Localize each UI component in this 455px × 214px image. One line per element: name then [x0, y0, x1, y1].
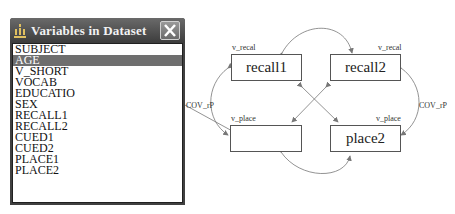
dialog-title: Variables in Dataset [31, 23, 146, 39]
cov-arrow-bottom [281, 152, 350, 174]
close-icon [161, 22, 179, 39]
list-item[interactable]: PLACE2 [13, 165, 182, 176]
cov-arrow-top [282, 28, 352, 53]
node-label: place2 [346, 130, 385, 146]
node-place2[interactable]: place2 [330, 125, 401, 152]
variance-label-place2[interactable]: v_place [376, 114, 401, 123]
cov-cross-1 [302, 87, 338, 122]
variance-label-place1[interactable]: v_place [231, 114, 256, 123]
covariance-label-right[interactable]: COV_rP [419, 101, 447, 110]
node-place1[interactable] [230, 125, 302, 152]
covariance-label-left[interactable]: COV_rP [186, 101, 214, 110]
list-item[interactable]: EDUCATIO [13, 88, 182, 99]
variables-icon [14, 24, 26, 38]
node-label: recall1 [246, 59, 287, 75]
variance-label-recall1[interactable]: v_recal [232, 43, 256, 52]
node-recall2[interactable]: recall2 [330, 54, 401, 81]
cov-arrow-right [401, 68, 419, 135]
variables-dialog: Variables in Dataset SUBJECT AGE V_SHORT… [10, 18, 185, 205]
close-button[interactable] [160, 21, 180, 40]
variance-label-recall2[interactable]: v_recal [378, 43, 402, 52]
cov-cross-2 [292, 87, 326, 122]
variables-list[interactable]: SUBJECT AGE V_SHORT VOCAB EDUCATIO SEX R… [12, 43, 183, 203]
dialog-titlebar[interactable]: Variables in Dataset [10, 18, 185, 43]
node-label: recall2 [345, 59, 386, 75]
node-recall1[interactable]: recall1 [231, 54, 302, 81]
